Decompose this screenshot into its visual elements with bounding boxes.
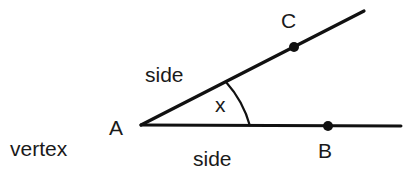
label-angle-x: x [215, 93, 226, 116]
label-vertex: vertex [10, 137, 68, 160]
point-c-dot [289, 42, 299, 52]
label-lower-side: side [193, 147, 232, 170]
point-b-dot [323, 121, 333, 131]
angle-arc [226, 82, 250, 126]
label-upper-side: side [145, 63, 184, 86]
label-b: B [318, 139, 332, 162]
label-c: C [281, 9, 296, 32]
label-a: A [109, 116, 123, 139]
lower-ray [141, 125, 401, 126]
angle-diagram: C B A x side side vertex [0, 0, 408, 180]
